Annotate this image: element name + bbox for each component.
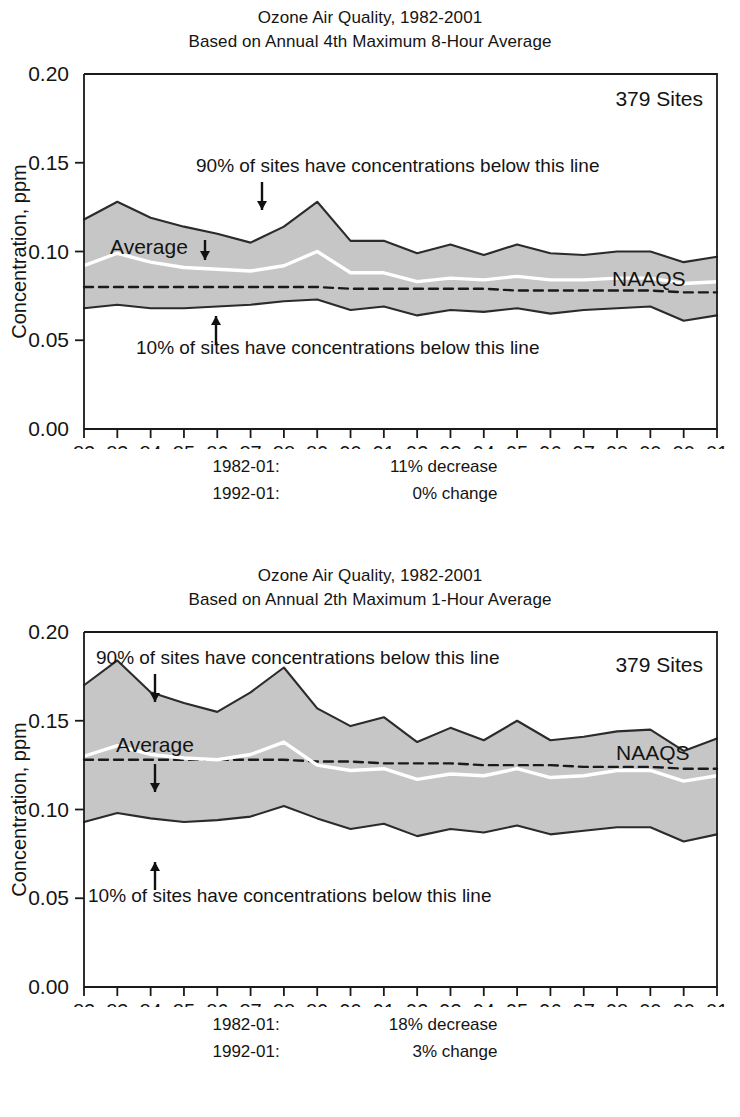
upper-percentile-annotation: 90% of sites have concentrations below t… bbox=[196, 155, 599, 176]
footnote-value: 18% decrease bbox=[333, 1011, 528, 1038]
ozone-8hour-plot-svg: 0.200.150.100.050.0082838485868788899091… bbox=[0, 54, 740, 449]
y-axis-tick-label: 0.05 bbox=[28, 886, 69, 909]
x-axis-tick-label: 93 bbox=[439, 1000, 461, 1007]
x-axis-tick-label: 00 bbox=[673, 442, 695, 449]
chart-title-bottom-line1: Ozone Air Quality, 1982-2001 bbox=[0, 564, 740, 588]
x-axis-tick-label: 84 bbox=[140, 442, 162, 449]
upper-percentile-arrow-icon bbox=[257, 182, 267, 210]
naaqs-annotation: NAAQS bbox=[612, 267, 686, 290]
x-axis-tick-label: 95 bbox=[506, 442, 528, 449]
x-axis-tick-label: 94 bbox=[473, 442, 495, 449]
chart-title-bottom: Ozone Air Quality, 1982-2001 Based on An… bbox=[0, 558, 740, 612]
footnote-value: 0% change bbox=[333, 480, 528, 507]
plot-area-bottom: 0.200.150.100.050.0082838485868788899091… bbox=[0, 612, 740, 1007]
x-axis-tick-label: 85 bbox=[173, 442, 195, 449]
x-axis-tick-label: 01 bbox=[706, 1000, 728, 1007]
upper-percentile-annotation: 90% of sites have concentrations below t… bbox=[96, 647, 499, 668]
x-axis-tick-label: 88 bbox=[273, 442, 295, 449]
figure-ozone-8hour: Ozone Air Quality, 1982-2001 Based on An… bbox=[0, 0, 740, 545]
ozone-1hour-plot-svg: 0.200.150.100.050.0082838485868788899091… bbox=[0, 612, 740, 1007]
naaqs-annotation: NAAQS bbox=[616, 741, 690, 764]
footnote-value: 11% decrease bbox=[333, 453, 528, 480]
x-axis-tick-label: 86 bbox=[206, 442, 228, 449]
y-axis-tick-label: 0.20 bbox=[28, 620, 69, 643]
chart-title-top-line1: Ozone Air Quality, 1982-2001 bbox=[0, 6, 740, 30]
x-axis-tick-label: 00 bbox=[673, 1000, 695, 1007]
y-axis-title: Concentration, ppm bbox=[8, 722, 30, 897]
x-axis-tick-label: 86 bbox=[206, 1000, 228, 1007]
x-axis-tick-label: 00 bbox=[639, 442, 661, 449]
y-axis-tick-label: 0.15 bbox=[28, 151, 69, 174]
sites-count-label: 379 Sites bbox=[615, 653, 703, 676]
x-axis-tick-label: 92 bbox=[406, 1000, 428, 1007]
chart-title-bottom-line2: Based on Annual 2th Maximum 1-Hour Avera… bbox=[0, 588, 740, 612]
footnotes-top: 1982-01: 11% decrease 1992-01: 0% change bbox=[0, 453, 740, 507]
y-axis-tick-label: 0.00 bbox=[28, 417, 69, 440]
x-axis-tick-label: 01 bbox=[706, 442, 728, 449]
y-axis-tick-label: 0.10 bbox=[28, 240, 69, 263]
footnote-label: 1982-01: bbox=[213, 1011, 333, 1038]
x-axis-tick-label: 87 bbox=[239, 1000, 261, 1007]
y-axis-tick-label: 0.05 bbox=[28, 328, 69, 351]
x-axis-tick-label: 89 bbox=[306, 442, 328, 449]
y-axis-tick-label: 0.15 bbox=[28, 709, 69, 732]
average-annotation: Average bbox=[116, 733, 194, 756]
x-axis-tick-label: 98 bbox=[606, 442, 628, 449]
percentile-band-fill bbox=[84, 202, 717, 321]
footnote-label: 1992-01: bbox=[213, 1038, 333, 1065]
lower-percentile-annotation: 10% of sites have concentrations below t… bbox=[136, 337, 539, 358]
x-axis-tick-label: 91 bbox=[373, 442, 395, 449]
figure-ozone-1hour: Ozone Air Quality, 1982-2001 Based on An… bbox=[0, 558, 740, 1117]
x-axis-tick-label: 95 bbox=[506, 1000, 528, 1007]
x-axis-tick-label: 92 bbox=[406, 442, 428, 449]
x-axis-tick-label: 83 bbox=[106, 1000, 128, 1007]
average-annotation: Average bbox=[110, 235, 188, 258]
chart-title-top-line2: Based on Annual 4th Maximum 8-Hour Avera… bbox=[0, 30, 740, 54]
x-axis-tick-label: 96 bbox=[539, 442, 561, 449]
x-axis-tick-label: 94 bbox=[473, 1000, 495, 1007]
x-axis-tick-label: 85 bbox=[173, 1000, 195, 1007]
x-axis-tick-label: 82 bbox=[73, 442, 95, 449]
x-axis-tick-label: 88 bbox=[273, 1000, 295, 1007]
footnote-row: 1982-01: 18% decrease bbox=[0, 1011, 740, 1038]
lower-percentile-annotation: 10% of sites have concentrations below t… bbox=[88, 885, 491, 906]
x-axis-tick-label: 87 bbox=[239, 442, 261, 449]
y-axis-tick-label: 0.20 bbox=[28, 62, 69, 85]
footnote-row: 1992-01: 0% change bbox=[0, 480, 740, 507]
footnote-row: 1992-01: 3% change bbox=[0, 1038, 740, 1065]
x-axis-tick-label: 84 bbox=[140, 1000, 162, 1007]
chart-title-top: Ozone Air Quality, 1982-2001 Based on An… bbox=[0, 0, 740, 54]
x-axis-tick-label: 90 bbox=[339, 1000, 361, 1007]
y-axis-tick-label: 0.00 bbox=[28, 975, 69, 998]
x-axis-tick-label: 93 bbox=[439, 442, 461, 449]
footnote-row: 1982-01: 11% decrease bbox=[0, 453, 740, 480]
x-axis-tick-label: 89 bbox=[306, 1000, 328, 1007]
x-axis-tick-label: 97 bbox=[573, 442, 595, 449]
x-axis-tick-label: 91 bbox=[373, 1000, 395, 1007]
y-axis-title: Concentration, ppm bbox=[8, 164, 30, 339]
x-axis-tick-label: 82 bbox=[73, 1000, 95, 1007]
footnotes-bottom: 1982-01: 18% decrease 1992-01: 3% change bbox=[0, 1011, 740, 1065]
x-axis-tick-label: 90 bbox=[339, 442, 361, 449]
footnote-label: 1982-01: bbox=[213, 453, 333, 480]
x-axis-tick-label: 00 bbox=[639, 1000, 661, 1007]
x-axis-tick-label: 83 bbox=[106, 442, 128, 449]
x-axis-tick-label: 98 bbox=[606, 1000, 628, 1007]
footnote-label: 1992-01: bbox=[213, 480, 333, 507]
footnote-value: 3% change bbox=[333, 1038, 528, 1065]
x-axis-tick-label: 96 bbox=[539, 1000, 561, 1007]
sites-count-label: 379 Sites bbox=[615, 87, 703, 110]
plot-area-top: 0.200.150.100.050.0082838485868788899091… bbox=[0, 54, 740, 449]
y-axis-tick-label: 0.10 bbox=[28, 798, 69, 821]
x-axis-tick-label: 97 bbox=[573, 1000, 595, 1007]
